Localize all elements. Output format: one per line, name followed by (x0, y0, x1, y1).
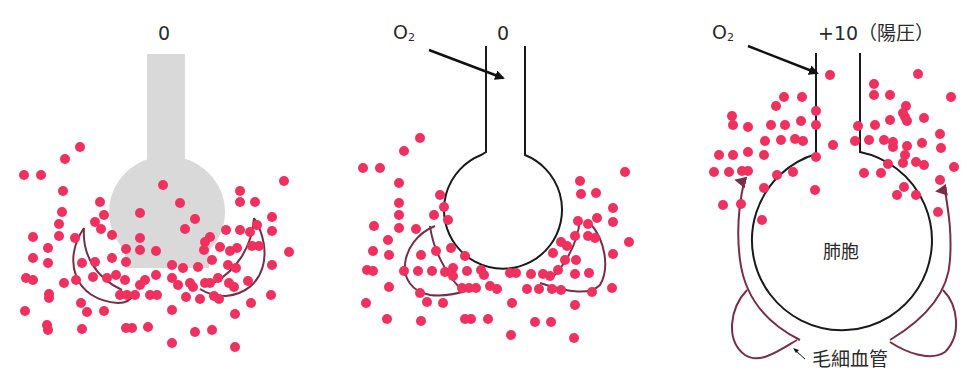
o2-subscript: 2 (408, 31, 415, 44)
panel-3-o2-label: O2 (712, 23, 734, 43)
open-alveolus (444, 46, 562, 269)
panel-2-o2-label: O2 (393, 23, 415, 43)
o2-subscript: 2 (727, 31, 734, 44)
alveolus-label: 肺胞 (823, 243, 859, 261)
panel-3-pressure-label: +10（陽圧） (818, 24, 934, 43)
panel-2-pressure-label: 0 (497, 24, 509, 43)
alveolus-diagram (0, 0, 977, 389)
o2-text: O (393, 21, 408, 43)
panel-1 (19, 54, 294, 352)
o2-text: O (712, 21, 727, 43)
panel-3 (709, 46, 959, 359)
o2-arrow (748, 46, 817, 73)
capillary-label: 毛細血管 (812, 350, 888, 369)
panel-2 (358, 46, 634, 343)
panel-1-pressure-label: 0 (158, 24, 170, 43)
